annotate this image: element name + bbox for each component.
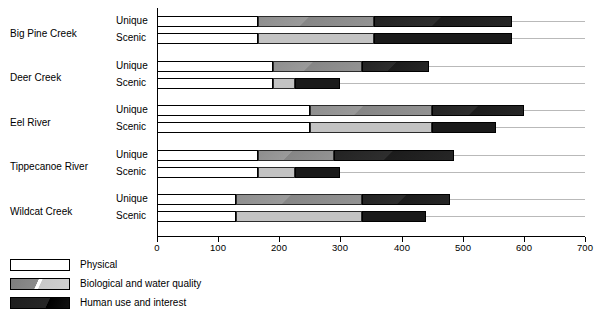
bar-eel-river-unique — [0, 105, 596, 116]
bar-segment-bio — [258, 150, 334, 161]
bar-deer-creek-unique — [0, 61, 596, 72]
bar-segment-bio — [258, 167, 295, 178]
x-tick-label: 100 — [198, 242, 238, 253]
legend-swatch-icon — [10, 278, 70, 290]
bar-segment-human — [334, 150, 454, 161]
x-tick-label: 500 — [443, 242, 483, 253]
bar-segment-bio — [258, 16, 374, 27]
bar-segment-physical — [157, 122, 310, 133]
bar-big-pine-creek-scenic — [0, 33, 596, 44]
x-tick-label: 400 — [382, 242, 422, 253]
bar-tippecanoe-river-scenic — [0, 167, 596, 178]
bar-segment-bio — [273, 61, 362, 72]
x-tick-label: 0 — [137, 242, 177, 253]
bar-segment-physical — [157, 78, 273, 89]
bar-segment-physical — [157, 33, 258, 44]
bar-segment-human — [362, 194, 450, 205]
bar-segment-bio — [236, 194, 362, 205]
bar-segment-physical — [157, 61, 273, 72]
bar-segment-physical — [157, 105, 310, 116]
bar-segment-human — [432, 122, 496, 133]
bar-segment-human — [295, 78, 340, 89]
chart-figure: 0100200300400500600700 UniqueScenicUniqu… — [0, 0, 596, 321]
x-axis-line — [157, 236, 585, 237]
x-tick-label: 300 — [320, 242, 360, 253]
bar-segment-human — [432, 105, 524, 116]
bar-wildcat-creek-scenic — [0, 211, 596, 222]
bar-deer-creek-scenic — [0, 78, 596, 89]
bar-segment-physical — [157, 167, 258, 178]
bar-segment-human — [374, 16, 512, 27]
bar-segment-human — [295, 167, 340, 178]
bar-segment-bio — [236, 211, 362, 222]
bar-segment-bio — [258, 33, 374, 44]
legend-label: Physical — [80, 258, 117, 272]
legend-swatch-icon — [10, 297, 70, 309]
x-tick-label: 200 — [259, 242, 299, 253]
bar-segment-human — [362, 211, 426, 222]
legend-swatch-icon — [10, 259, 70, 271]
bar-segment-bio — [310, 122, 432, 133]
bar-eel-river-scenic — [0, 122, 596, 133]
x-tick-label: 600 — [504, 242, 544, 253]
plot-area: 0100200300400500600700 UniqueScenicUniqu… — [0, 0, 596, 250]
legend-label: Biological and water quality — [80, 277, 201, 291]
bar-segment-physical — [157, 194, 236, 205]
bar-segment-human — [362, 61, 429, 72]
bar-segment-bio — [310, 105, 432, 116]
bar-segment-physical — [157, 211, 236, 222]
bar-tippecanoe-river-unique — [0, 150, 596, 161]
bar-wildcat-creek-unique — [0, 194, 596, 205]
bar-segment-bio — [273, 78, 295, 89]
bar-segment-physical — [157, 150, 258, 161]
bar-segment-physical — [157, 16, 258, 27]
legend-label: Human use and interest — [80, 296, 186, 310]
x-tick-label: 700 — [565, 242, 596, 253]
bar-segment-human — [374, 33, 512, 44]
bar-big-pine-creek-unique — [0, 16, 596, 27]
